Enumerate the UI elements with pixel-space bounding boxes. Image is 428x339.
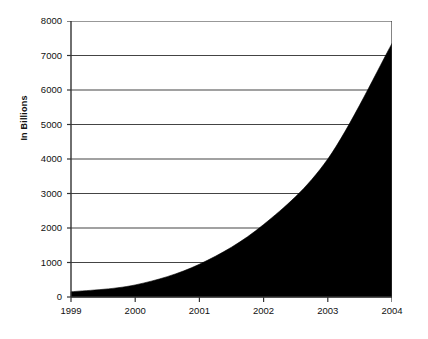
x-axis-tick-labels: 199920002001200220032004 — [0, 0, 428, 339]
x-tick-label: 2000 — [105, 305, 165, 316]
x-tick-label: 2001 — [169, 305, 229, 316]
x-tick-label: 2003 — [298, 305, 358, 316]
x-tick-label: 2004 — [362, 305, 422, 316]
area-chart-figure: In Billions 0100020003000400050006000700… — [0, 0, 428, 339]
x-tick-label: 2002 — [234, 305, 294, 316]
x-tick-label: 1999 — [41, 305, 101, 316]
